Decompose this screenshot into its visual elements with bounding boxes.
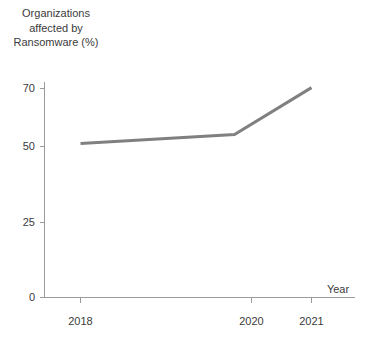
x-tick-marks bbox=[81, 298, 312, 304]
x-tick-label-2021: 2021 bbox=[299, 315, 323, 327]
x-axis-label: Year bbox=[327, 283, 350, 295]
x-tick-label-2018: 2018 bbox=[68, 315, 92, 327]
y-tick-label-25: 25 bbox=[23, 216, 35, 228]
chart-plot-area: 70 50 25 0 2018 2020 2021 Year bbox=[0, 0, 371, 337]
x-tick-label-2020: 2020 bbox=[239, 315, 263, 327]
data-line-series-0 bbox=[81, 88, 312, 144]
y-tick-label-0: 0 bbox=[29, 291, 35, 303]
chart-container: Organizations affected by Ransomware (%)… bbox=[0, 0, 371, 337]
y-tick-label-50: 50 bbox=[23, 140, 35, 152]
y-tick-label-70: 70 bbox=[23, 82, 35, 94]
